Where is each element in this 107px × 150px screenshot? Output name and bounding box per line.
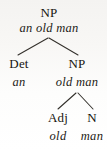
branch-root-to-det: [18, 38, 48, 55]
node-string-inner-np: old man: [56, 76, 99, 89]
node-string-noun: man: [81, 130, 103, 143]
node-label-inner-np: NP: [68, 57, 85, 70]
node-string-root-np: an old man: [19, 22, 78, 35]
branch-np-to-adj: [58, 93, 76, 109]
node-label-noun: N: [87, 111, 97, 124]
node-label-root-np: NP: [40, 6, 57, 19]
node-string-det: an: [12, 76, 25, 89]
node-label-det: Det: [9, 57, 28, 70]
branch-root-to-np: [49, 38, 78, 55]
syntax-tree-figure: NP an old man Det an NP old man Adj old …: [0, 0, 107, 150]
branch-np-to-n: [78, 93, 93, 109]
node-string-adj: old: [50, 130, 67, 143]
node-label-adj: Adj: [48, 111, 68, 124]
